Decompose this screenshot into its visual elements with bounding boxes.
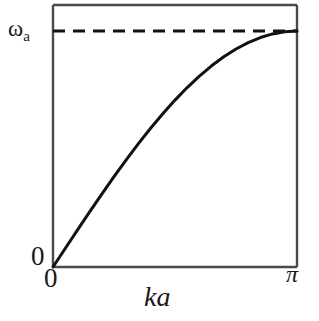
y-axis-max-label: ωa: [8, 17, 30, 44]
omega-subscript-a: a: [23, 28, 30, 44]
x-axis-title: ka: [144, 283, 170, 311]
y-axis-origin-label: 0: [31, 243, 45, 270]
dispersion-figure: ωa 0 0 π ka: [0, 0, 319, 321]
x-axis-origin-label: 0: [44, 265, 58, 292]
omega-symbol: ω: [8, 16, 23, 41]
x-axis-max-label: π: [286, 262, 298, 286]
